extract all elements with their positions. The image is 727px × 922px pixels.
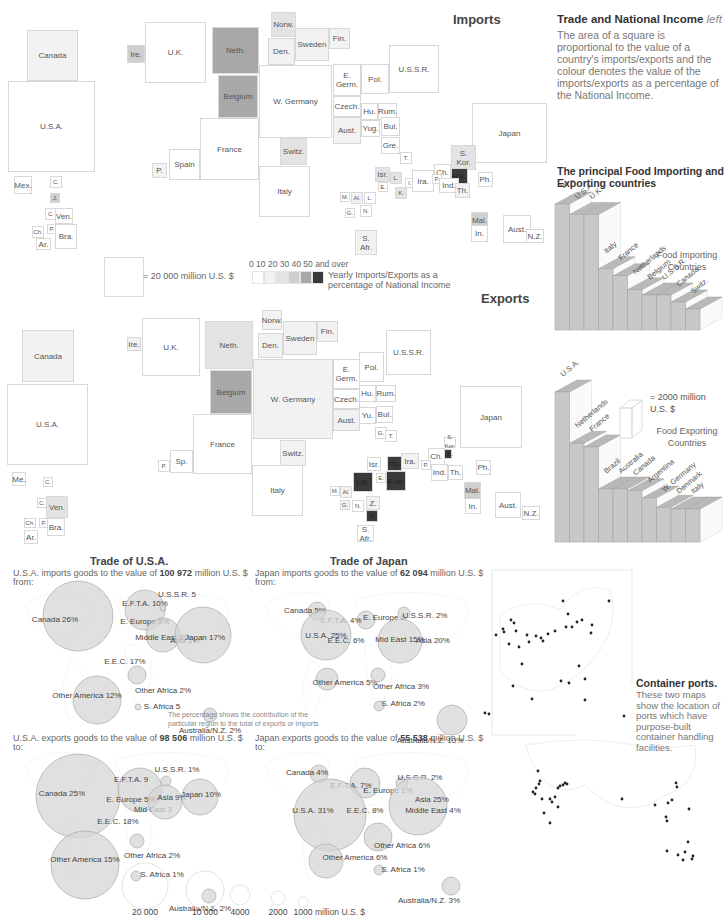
exports-square-label: Bul. — [378, 410, 392, 419]
imports-square-label: Rum. — [378, 107, 397, 116]
japan-exports-bubble-label: U.S.A. 31% — [292, 806, 333, 815]
port-marker — [547, 633, 550, 636]
japan-imports-bubble-label: Asia 20% — [416, 636, 450, 645]
imports-square-label: Ar. — [39, 240, 49, 249]
imports-square: G. — [345, 208, 355, 218]
usa-imports-bubble-label: E.E.C. 17% — [104, 657, 145, 666]
port-marker — [508, 643, 511, 646]
imports-square-label: Mex. — [14, 181, 31, 190]
port-marker — [535, 787, 538, 790]
japan-trade-title: Trade of Japan — [330, 555, 408, 567]
imports-square: S. Kor. — [451, 145, 476, 170]
imports-square: M. — [340, 192, 350, 202]
imports-square: Canada — [27, 30, 78, 81]
exports-square: W. Germany — [253, 359, 333, 439]
port-marker — [551, 801, 554, 804]
imports-square-label: Fin. — [333, 34, 346, 43]
port-marker — [488, 713, 491, 716]
imports-square-label: Pol. — [368, 75, 382, 84]
exports-square: Italy — [252, 465, 303, 516]
exports-square: Sp. — [170, 450, 193, 473]
exports-square-label: S. Afr. — [358, 525, 373, 543]
imports-square-label: C. — [53, 178, 59, 187]
imports-square-label: S. Afr. — [356, 234, 376, 252]
imports-square-label: G. — [347, 209, 353, 218]
imports-square-label: Ire. — [130, 50, 142, 59]
imports-square-label: S. Kor. — [452, 149, 475, 167]
exports-square: E. Germ. — [333, 359, 360, 389]
exports-square-label: Mal. — [465, 486, 480, 495]
usa-exports-bubble — [148, 785, 182, 819]
japan-exports-bubble-label: Australia/N.Z. 3% — [398, 896, 460, 905]
imports-square: Isr. — [375, 167, 390, 182]
port-marker — [560, 680, 563, 683]
scale-bubble-label: 1000 — [294, 907, 313, 917]
port-marker — [590, 632, 593, 635]
exports-square: France — [193, 414, 252, 474]
exports-square-label: Sweden — [286, 334, 315, 343]
scale-bubble — [230, 885, 250, 905]
japan-exports-bubble-label: Canada 4% — [286, 768, 328, 777]
port-marker — [576, 621, 579, 624]
imports-square-label: Ch. — [33, 228, 42, 237]
exports-square: Rum. — [376, 385, 396, 402]
shade-caption-1: Yearly Imports/Exports as a — [328, 270, 438, 280]
description-title-suffix: left — [707, 13, 722, 25]
usa-exports-bubble-label: S. Africa 1% — [140, 870, 184, 879]
port-marker — [687, 841, 690, 844]
japan-exports-bubble-label: Asia 25% — [415, 795, 449, 804]
imports-square-label: Neth. — [226, 46, 245, 55]
imports-square: Norw. — [271, 12, 296, 37]
exports-square: Ven. — [46, 496, 68, 518]
imports-square: E. Germ. — [333, 64, 361, 96]
imports-square: Ven. — [55, 208, 73, 224]
exports-square-label: Aust. — [499, 501, 517, 510]
imports-square: Th. — [455, 183, 470, 198]
shade-legend — [252, 271, 324, 284]
port-marker — [549, 822, 552, 825]
food-unit-box — [620, 400, 642, 438]
imports-square-label: E. Germ. — [334, 71, 360, 89]
usa-exports-bubble-label: E.E.C. 18% — [97, 817, 138, 826]
imports-square: Ph. — [478, 172, 493, 187]
imports-square-label: Sweden — [298, 40, 327, 49]
exports-square-label: Japan — [480, 413, 502, 422]
imports-square-label: C. — [48, 210, 54, 219]
exports-square: Ar. — [24, 530, 38, 544]
port-marker — [623, 715, 626, 718]
port-marker — [541, 798, 544, 801]
exports-square: Belgium — [210, 370, 252, 414]
exports-square: Me. — [12, 472, 26, 486]
scale-bubble-label: 20 000 — [132, 907, 158, 917]
imports-square: J. — [50, 193, 60, 203]
exports-square-label: Switz. — [282, 449, 303, 458]
shade-caption-2: percentage of National Income — [328, 280, 451, 290]
port-marker — [557, 806, 560, 809]
exports-square-label: Ire. — [128, 340, 140, 349]
usa-imports-bubble — [73, 676, 121, 724]
food-title-line1: The principal Food Importing and — [557, 165, 724, 177]
port-marker — [665, 816, 668, 819]
exports-square-label: Neth. — [219, 341, 238, 350]
exports-square: Isr. — [367, 457, 381, 471]
usa-exports-bubble — [161, 776, 171, 786]
port-marker — [566, 783, 569, 786]
description-title: Trade and National Income left — [557, 13, 722, 25]
exports-square: Kuw. — [386, 471, 406, 491]
port-marker — [502, 628, 505, 631]
usa-imports-label: U.S.A. imports goods to the value of — [13, 568, 157, 578]
exports-square: Ire. — [127, 337, 141, 351]
port-marker — [549, 798, 552, 801]
exports-title: Exports — [481, 291, 529, 306]
shade-swatch — [288, 271, 300, 284]
exports-square-label: Irq. — [389, 459, 401, 468]
note-line-1: The percentage shows the contribution of… — [168, 710, 319, 719]
exports-square-label: U.K. — [163, 343, 179, 352]
imports-square: Al. — [351, 192, 363, 204]
shade-ticks: 0 10 20 30 40 50 and over — [249, 259, 348, 269]
imports-square-label: M. — [342, 193, 349, 202]
port-marker — [554, 630, 557, 633]
imports-square-label: U.S.A. — [40, 122, 63, 131]
exports-square-label: C. — [39, 499, 45, 508]
port-marker — [559, 785, 562, 788]
